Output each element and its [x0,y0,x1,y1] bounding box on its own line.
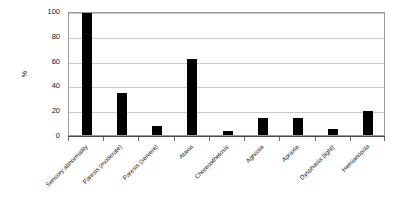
x-axis-category-labels: Sensory abnormalityParesis (moderate)Par… [68,141,398,213]
y-axis-tick-labels: 020406080100 [34,12,64,136]
bar [328,129,338,135]
y-axis-title: % [14,64,34,84]
bar [117,93,127,135]
y-tick-label: 60 [52,58,60,66]
bar [293,118,303,135]
y-tick-label: 0 [56,132,60,140]
bar [258,118,268,135]
bar [82,13,92,135]
y-tick-label: 20 [52,107,60,115]
x-category-label: Ataxia [177,143,194,160]
bar-chart: % 020406080100 Sensory abnormalityParesi… [0,0,398,213]
bar [152,126,162,135]
bar [223,131,233,135]
y-tick-label: 80 [52,33,60,41]
y-tick-label: 40 [52,82,60,90]
x-category-label: Paresis (servere) [121,143,159,181]
bar [187,59,197,135]
x-category-label: Choreoathetosis [193,143,230,180]
x-category-label: Agnosia [244,143,265,164]
x-category-label: Dysphasia (light) [298,143,336,181]
y-tick-label: 100 [47,8,60,16]
plot-area [68,12,385,136]
bars-group [69,13,384,135]
x-category-label: Paresis (moderate) [81,143,123,185]
x-category-label: Hemianopsia [340,143,370,173]
bar [363,111,373,135]
x-category-label: Apraxia [280,143,300,163]
